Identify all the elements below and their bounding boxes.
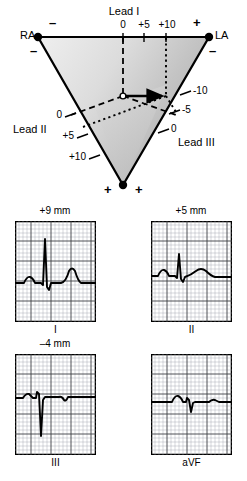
ecg-panel-lead-i	[15, 221, 96, 322]
foot-polarity-left: +	[104, 183, 112, 196]
einthoven-triangle-figure: Lead I RA LA – – + – + + 0 +5 +10 0 +5 +…	[0, 0, 247, 481]
einthoven-triangle-diagram	[0, 0, 247, 200]
foot-polarity-right: +	[135, 183, 143, 196]
vertex-label-ra: RA	[20, 30, 35, 41]
lead-iii-title: Lead III	[178, 137, 215, 148]
lead-iii-amplitude-label: –4 mm	[15, 339, 95, 349]
lead-i-tick-10: +10	[159, 20, 176, 30]
vertex-dot-la	[205, 33, 213, 41]
ecg-panel-lead-iii	[15, 354, 96, 455]
lead-ii-tick-5: +5	[63, 131, 74, 141]
la-polarity-side: –	[209, 44, 216, 57]
la-polarity-top: +	[193, 16, 201, 29]
ecg-lead-label-i: I	[15, 325, 96, 335]
lead-i-amplitude-label: +9 mm	[15, 206, 95, 216]
ecg-lead-label-iii: III	[15, 458, 96, 468]
vertex-label-la: LA	[215, 30, 228, 41]
ecg-lead-label-avf: aVF	[151, 458, 232, 468]
ecg-panel-avf	[151, 354, 232, 455]
lead-i-tick-5: +5	[138, 20, 149, 30]
lead-ii-amplitude-label: +5 mm	[151, 206, 231, 216]
lead-i-title: Lead I	[109, 6, 140, 17]
lead-iii-tick-minus5: -5	[182, 105, 191, 115]
lead-iii-tick-minus10: -10	[193, 86, 207, 96]
ecg-lead-label-ii: II	[151, 325, 232, 335]
ecg-panel-lead-ii	[151, 221, 232, 322]
lead-ii-tick-0: 0	[56, 110, 62, 120]
lead-ii-title: Lead II	[13, 124, 47, 135]
lead-iii-tick-0: 0	[171, 124, 177, 134]
lead-i-tick-0: 0	[120, 20, 126, 30]
vertex-dot-foot	[119, 181, 127, 189]
ra-polarity-top: –	[49, 16, 56, 29]
lead-ii-tick-10: +10	[69, 152, 86, 162]
ra-polarity-side: –	[30, 44, 37, 57]
